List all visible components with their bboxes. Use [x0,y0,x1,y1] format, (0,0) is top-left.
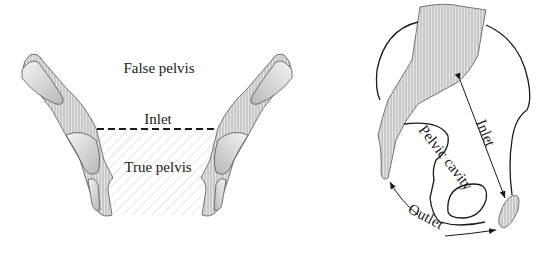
inlet-label-sagittal: Inlet [473,117,498,149]
outlet-arrow-right [445,230,496,236]
outlet-label: Outlet [406,201,447,233]
pubic-symphysis [499,195,519,228]
frontal-pelvis-figure: False pelvis Inlet True pelvis [22,54,292,216]
false-pelvis-label: False pelvis [123,60,194,76]
true-pelvis-label: True pelvis [124,159,192,175]
sacrum [378,4,486,179]
sagittal-pelvis-figure: Inlet Pelvic cavity Outlet [376,4,529,236]
inlet-label: Inlet [144,111,172,127]
pelvis-diagram: False pelvis Inlet True pelvis Inlet Pel… [0,0,543,260]
